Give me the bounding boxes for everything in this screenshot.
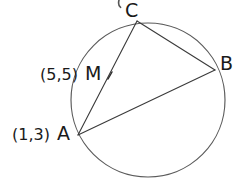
coordinate-label-a: (1,3) xyxy=(12,127,50,143)
point-label-c: C xyxy=(125,1,138,20)
diagram-canvas: C B (5,5) M (1,3) A xyxy=(0,0,246,186)
midpoint-m-annotation: (5,5) M xyxy=(40,64,101,83)
coordinate-label-m: (5,5) xyxy=(40,67,78,83)
point-label-m: M xyxy=(85,64,101,83)
circumscribed-circle xyxy=(71,23,225,177)
top-crop-artifact xyxy=(119,0,121,7)
point-a-annotation: (1,3) A xyxy=(12,124,70,143)
circle-geometry-figure xyxy=(0,0,246,186)
point-label-a: A xyxy=(57,124,70,143)
point-label-b: B xyxy=(220,54,233,73)
